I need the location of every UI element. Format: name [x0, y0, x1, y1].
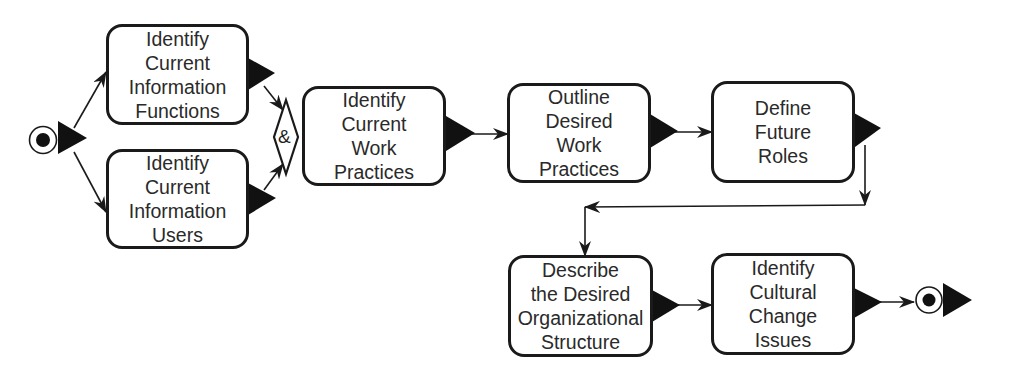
activity-define-future-roles: Define Future Roles [711, 81, 855, 183]
activity-describe-desired-organizational-structure: Describe the Desired Organizational Stru… [508, 255, 653, 357]
activity-identify-current-work-practices: Identify Current Work Practices [302, 86, 446, 186]
activity-outline-desired-work-practices: Outline Desired Work Practices [507, 83, 651, 183]
edge-start-a2 [74, 152, 106, 212]
edge-a5-left [585, 205, 865, 207]
edge-start-a1 [74, 72, 106, 128]
start-node [30, 121, 88, 154]
activity-identify-cultural-change-issues: Identify Cultural Change Issues [711, 253, 855, 355]
edge-a1-join [264, 86, 283, 110]
join-label: & [278, 126, 291, 148]
edge-a2-join [264, 164, 283, 190]
activity-identify-current-information-functions: Identify Current Information Functions [106, 24, 249, 125]
activity-identify-current-information-users: Identify Current Information Users [106, 149, 249, 249]
end-node [916, 283, 972, 317]
